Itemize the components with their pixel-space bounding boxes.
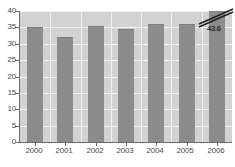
x-axis-tick-mark <box>156 143 157 146</box>
x-axis-tick-labels: 2000200120022003200420052006 <box>19 146 232 160</box>
bar-2005 <box>179 24 195 142</box>
bar-2000 <box>27 27 43 142</box>
gridline-vertical <box>50 11 51 142</box>
x-axis-tick-mark <box>126 143 127 146</box>
x-axis-tick-mark <box>35 143 36 146</box>
y-axis-tick-mark <box>15 142 19 143</box>
y-axis-tick-mark <box>15 126 19 127</box>
plot-area <box>19 11 232 143</box>
x-axis-tick-label: 2000 <box>19 146 49 155</box>
x-axis-tick-label: 2003 <box>110 146 140 155</box>
bar-2001 <box>57 37 73 142</box>
bar-2004 <box>148 24 164 142</box>
x-axis-tick-label: 2004 <box>140 146 170 155</box>
x-axis-tick-mark <box>65 143 66 146</box>
gridline-vertical <box>111 11 112 142</box>
y-axis-tick-mark <box>15 60 19 61</box>
gridline-horizontal <box>20 27 232 28</box>
bar-2002 <box>88 26 104 142</box>
gridline-vertical <box>171 11 172 142</box>
y-axis-tick-mark <box>15 44 19 45</box>
x-axis-tick-label: 2002 <box>80 146 110 155</box>
x-axis-tick-mark <box>96 143 97 146</box>
y-axis-tick-mark <box>15 77 19 78</box>
y-axis-tick-mark <box>15 93 19 94</box>
x-axis-tick-mark <box>217 143 218 146</box>
bar-2003 <box>118 29 134 142</box>
y-axis-tick-mark <box>15 11 19 12</box>
x-axis-tick-mark <box>187 143 188 146</box>
x-axis-tick-label: 2006 <box>201 146 231 155</box>
gridline-vertical <box>81 11 82 142</box>
gridline-horizontal <box>20 11 232 12</box>
bar-value-label-2006: 43.6 <box>207 25 221 33</box>
x-axis-tick-label: 2005 <box>170 146 200 155</box>
x-axis-tick-label: 2001 <box>49 146 79 155</box>
bar-chart: 0510152025303540 20002001200220032004200… <box>0 0 235 167</box>
y-axis-tick-mark <box>15 27 19 28</box>
gridline-vertical <box>141 11 142 142</box>
y-axis-tick-mark <box>15 109 19 110</box>
gridline-vertical <box>202 11 203 142</box>
